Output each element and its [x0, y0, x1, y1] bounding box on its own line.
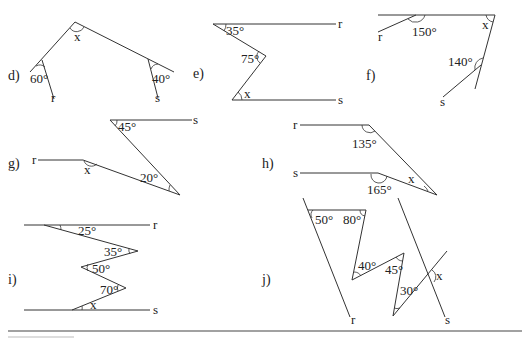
angle-30: 30° — [400, 283, 418, 298]
angle-x: x — [436, 268, 443, 283]
line-r: r — [293, 117, 298, 132]
angle-75: 75° — [241, 51, 259, 66]
angle-40: 40° — [358, 258, 376, 273]
angle-25: 25° — [78, 223, 96, 238]
angle-x: x — [482, 17, 489, 32]
line-s: s — [445, 312, 450, 327]
line-s: s — [440, 94, 445, 109]
angle-150: 150° — [412, 24, 437, 39]
angle-50: 50° — [315, 212, 333, 227]
line-r: r — [338, 16, 343, 31]
angle-x: x — [244, 86, 251, 101]
angle-35: 35° — [104, 244, 122, 259]
problem-label-f: f) — [366, 68, 376, 84]
problem-d: d) x 60° 40° r s — [8, 22, 174, 105]
line-r: r — [32, 152, 37, 167]
angle-20: 20° — [140, 170, 158, 185]
line-s: s — [293, 165, 298, 180]
angle-165: 165° — [367, 182, 392, 197]
geometry-worksheet: d) x 60° 40° r s e) 35° 75° x r s f) — [0, 0, 522, 339]
angle-135: 135° — [352, 136, 377, 151]
problem-label-h: h) — [262, 156, 274, 172]
angle-80: 80° — [343, 212, 361, 227]
angle-140: 140° — [448, 54, 473, 69]
angle-40: 40° — [152, 71, 170, 86]
problem-label-j: j) — [261, 272, 271, 288]
problem-label-d: d) — [8, 68, 20, 84]
line-r: r — [51, 90, 56, 105]
problem-g: g) 45° x 20° r s — [8, 112, 198, 195]
problem-e: e) 35° 75° x r s — [193, 16, 343, 107]
problem-f: f) 150° x 140° r s — [366, 15, 495, 109]
problem-j: j) 50° 80° 40° 45° 30° x r s — [261, 198, 450, 327]
line-s: s — [193, 112, 198, 127]
angle-35: 35° — [226, 23, 244, 38]
angle-45: 45° — [118, 119, 136, 134]
line-r: r — [153, 217, 158, 232]
problem-i: i) 25° 35° 50° 70° x r s — [8, 217, 158, 317]
angle-60: 60° — [30, 71, 48, 86]
angle-x: x — [408, 171, 415, 186]
line-s: s — [153, 302, 158, 317]
line-r: r — [378, 29, 383, 44]
angle-50: 50° — [92, 261, 110, 276]
angle-x: x — [84, 162, 91, 177]
problem-label-g: g) — [8, 156, 20, 172]
angle-x: x — [90, 297, 97, 312]
line-s: s — [338, 92, 343, 107]
problem-h: h) 135° 165° x r s — [262, 117, 437, 197]
line-r: r — [351, 312, 356, 327]
problem-label-i: i) — [8, 272, 17, 288]
problem-label-e: e) — [193, 66, 204, 82]
angle-45: 45° — [385, 262, 403, 277]
angle-x: x — [74, 29, 81, 44]
angle-70: 70° — [100, 282, 118, 297]
line-s: s — [155, 90, 160, 105]
